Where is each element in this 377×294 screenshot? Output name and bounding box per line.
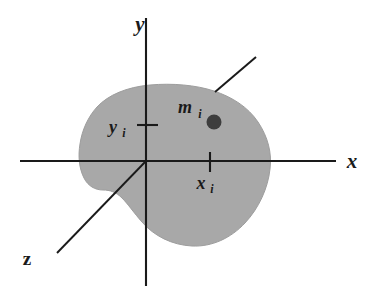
body-outline-path [79,84,270,246]
rigid-body-shape [79,84,270,246]
y-i-label: y [107,117,118,137]
y-axis-label: y [132,12,145,36]
z-axis-label: z [23,248,32,269]
point-mass-dot [207,115,222,130]
rigid-body-diagram: y x z x i y i m i [0,0,377,294]
m-i-label: m [178,97,192,117]
x-axis-label: x [346,149,358,173]
figure-root: y x z x i y i m i [0,0,377,294]
body-leader-line [215,57,256,92]
x-i-label: x [196,173,206,193]
